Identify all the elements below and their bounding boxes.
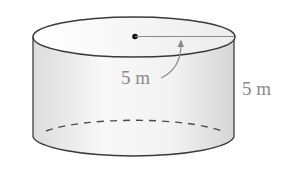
height-label: 5 m	[242, 78, 271, 99]
cylinder-diagram: 5 m 5 m	[0, 0, 293, 181]
radius-label: 5 m	[121, 67, 150, 88]
